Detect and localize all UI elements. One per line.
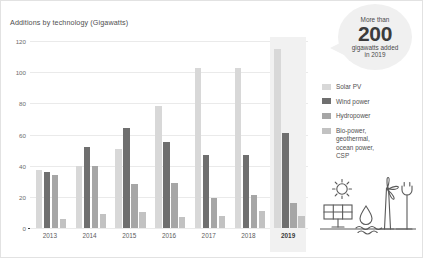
- bar[interactable]: [123, 128, 129, 228]
- power-plug-icon: [396, 183, 412, 230]
- renewables-illustration: [320, 176, 416, 242]
- solar-panel-icon: [324, 205, 352, 227]
- bar[interactable]: [76, 166, 82, 228]
- y-axis-tick-label: 0: [23, 228, 26, 229]
- callout-bubble: More than 200 gigawatts added in 2019: [338, 4, 412, 70]
- bar[interactable]: [52, 175, 58, 228]
- bar[interactable]: [115, 149, 121, 228]
- bar[interactable]: [131, 184, 137, 228]
- bar[interactable]: [235, 68, 241, 229]
- bar[interactable]: [155, 106, 161, 228]
- sun-icon: [333, 180, 352, 199]
- legend-item[interactable]: Wind power: [322, 98, 420, 106]
- gridline: 0: [30, 228, 308, 229]
- bar-group-2013: [36, 170, 66, 228]
- legend-swatch-icon: [322, 113, 331, 119]
- bar[interactable]: [44, 172, 50, 228]
- legend-label: Hydropower: [336, 112, 370, 120]
- plot-area: 120100806040200: [30, 41, 308, 228]
- x-axis-label-2016: 2016: [149, 232, 189, 239]
- bar[interactable]: [298, 216, 304, 228]
- bar[interactable]: [243, 155, 249, 228]
- callout-line-4: in 2019: [365, 51, 386, 58]
- y-axis-tick-label: 20: [19, 197, 26, 198]
- callout-line-3: gigawatts added: [352, 44, 399, 51]
- callout-number: 200: [358, 23, 392, 44]
- bar[interactable]: [139, 212, 145, 228]
- bar-group-2018: [235, 68, 265, 229]
- gridline: 100: [30, 72, 308, 73]
- bar[interactable]: [219, 216, 225, 228]
- x-axis-label-2013: 2013: [30, 232, 70, 239]
- y-axis-tick-label: 120: [16, 41, 26, 42]
- legend-swatch-icon: [322, 128, 331, 134]
- bar[interactable]: [84, 147, 90, 228]
- x-axis-label-2015: 2015: [109, 232, 149, 239]
- bar[interactable]: [36, 170, 42, 228]
- x-axis-label-2018: 2018: [229, 232, 269, 239]
- bar[interactable]: [251, 195, 257, 228]
- water-drop-icon: [360, 206, 372, 225]
- gridline: 120: [30, 41, 308, 42]
- legend-label: Wind power: [336, 98, 370, 106]
- bar-group-2014: [76, 147, 106, 228]
- bar-group-2015: [115, 128, 145, 228]
- legend-item[interactable]: Solar PV: [322, 83, 420, 91]
- x-axis-label-2017: 2017: [189, 232, 229, 239]
- legend-item[interactable]: Hydropower: [322, 112, 420, 120]
- y-axis-tick-label: 80: [19, 103, 26, 104]
- legend-swatch-icon: [322, 84, 331, 90]
- bar[interactable]: [203, 155, 209, 228]
- y-axis-tick-label: 100: [16, 72, 26, 73]
- gridline: 80: [30, 103, 308, 104]
- waves-icon: [356, 227, 382, 235]
- bar[interactable]: [100, 214, 106, 228]
- bar[interactable]: [290, 203, 296, 228]
- bar[interactable]: [179, 217, 185, 228]
- y-axis-tick-label: 40: [19, 166, 26, 167]
- bar[interactable]: [274, 49, 280, 228]
- bar[interactable]: [60, 219, 66, 228]
- legend-label: Bio-power, geothermal, ocean power, CSP: [336, 127, 374, 160]
- bar[interactable]: [259, 211, 265, 228]
- legend-swatch-icon: [322, 98, 331, 104]
- bar[interactable]: [163, 142, 169, 228]
- x-axis-label-2014: 2014: [70, 232, 110, 239]
- chart-title: Additions by technology (Gigawatts): [10, 18, 128, 27]
- bar-group-2017: [195, 68, 225, 229]
- bar[interactable]: [211, 198, 217, 228]
- x-axis-label-2019: 2019: [268, 232, 308, 239]
- bar[interactable]: [92, 166, 98, 228]
- bar-group-2019: [274, 49, 304, 228]
- bar[interactable]: [171, 183, 177, 228]
- bar[interactable]: [195, 68, 201, 229]
- y-axis-tick-label: 60: [19, 135, 26, 136]
- legend-item[interactable]: Bio-power, geothermal, ocean power, CSP: [322, 127, 420, 160]
- legend-label: Solar PV: [336, 83, 361, 91]
- wind-turbine-icon: [381, 177, 398, 229]
- bar-group-2016: [155, 106, 185, 228]
- bar[interactable]: [282, 133, 288, 228]
- chart-legend: Solar PVWind powerHydropowerBio-power, g…: [322, 83, 420, 166]
